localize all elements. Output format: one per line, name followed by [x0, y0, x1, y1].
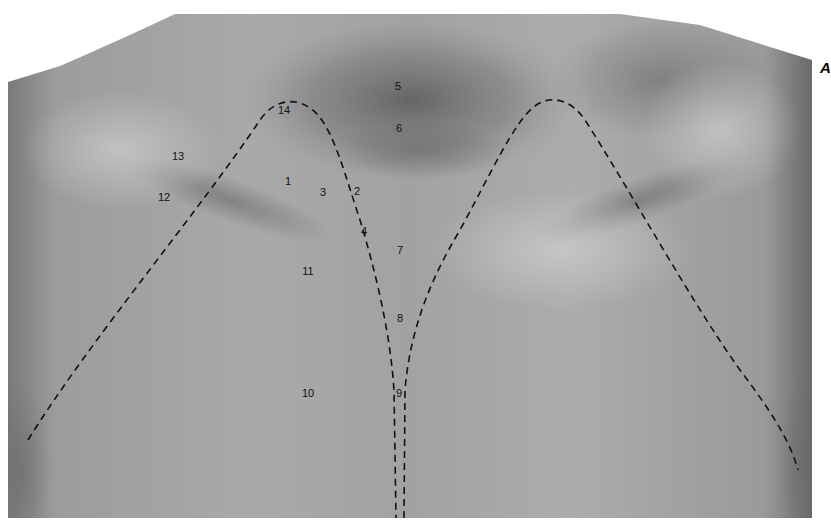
landmark-14: 14 [278, 105, 290, 116]
landmark-12: 12 [158, 192, 170, 203]
landmark-11: 11 [302, 266, 313, 277]
landmark-3: 3 [320, 187, 326, 198]
landmark-9: 9 [396, 388, 402, 399]
landmark-13: 13 [172, 151, 184, 162]
landmark-8: 8 [397, 313, 403, 324]
landmark-4: 4 [361, 226, 367, 237]
landmark-7: 7 [397, 245, 403, 256]
panel-label: A [820, 60, 831, 75]
landmark-5: 5 [395, 81, 401, 92]
landmark-2: 2 [354, 186, 360, 197]
landmark-6: 6 [396, 123, 402, 134]
landmark-10: 10 [302, 388, 314, 399]
landmark-1: 1 [285, 176, 291, 187]
